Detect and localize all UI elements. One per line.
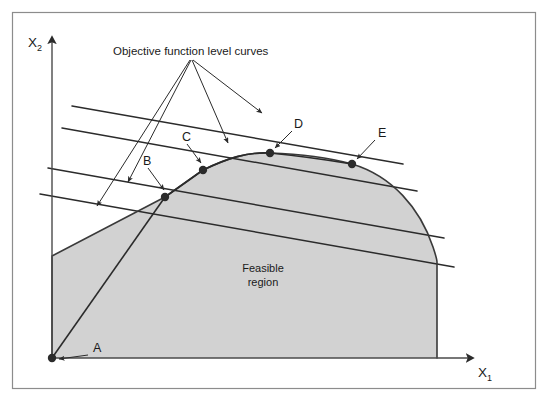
figure-container: X 2 X 1 Objective function level curves … bbox=[0, 0, 550, 403]
lp-nonlinear-feasible-region-diagram: X 2 X 1 Objective function level curves … bbox=[0, 0, 550, 403]
vertex-point-d[interactable] bbox=[266, 149, 274, 157]
y-axis-label: X bbox=[28, 35, 37, 50]
vertex-point-b[interactable] bbox=[161, 193, 169, 201]
y-axis-label-subscript: 2 bbox=[37, 43, 42, 53]
x-axis-label: X bbox=[478, 365, 487, 380]
vertex-point-a[interactable] bbox=[48, 354, 56, 362]
objective-annotation-label: Objective function level curves bbox=[113, 45, 269, 57]
vertex-point-c[interactable] bbox=[199, 166, 207, 174]
x-axis-label-subscript: 1 bbox=[487, 373, 492, 383]
feasible-region-label-line2: region bbox=[248, 276, 279, 288]
vertex-label-b: B bbox=[143, 154, 151, 168]
vertex-label-d: D bbox=[294, 117, 303, 131]
vertex-label-c: C bbox=[182, 130, 191, 144]
vertex-label-a: A bbox=[93, 341, 102, 355]
vertex-point-e[interactable] bbox=[348, 160, 356, 168]
vertex-label-e: E bbox=[378, 126, 386, 140]
feasible-region-label-line1: Feasible bbox=[242, 262, 284, 274]
